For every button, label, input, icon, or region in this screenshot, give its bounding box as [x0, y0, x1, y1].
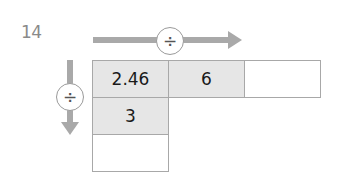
grid-row: 2.46 6	[93, 61, 321, 98]
question-number: 14	[21, 22, 42, 42]
grid-row: 3	[93, 98, 321, 135]
divide-icon: ÷	[56, 83, 84, 111]
cell-vertical-divisor: 3	[93, 98, 169, 135]
cell-start-value: 2.46	[93, 61, 169, 98]
cell-horizontal-answer[interactable]	[245, 61, 321, 98]
horizontal-operator: ÷	[163, 33, 177, 50]
cell-horizontal-divisor: 6	[169, 61, 245, 98]
down-arrow-icon	[61, 122, 79, 135]
right-arrow-icon	[228, 31, 242, 49]
empty-space	[245, 98, 321, 135]
cell-vertical-answer[interactable]	[93, 135, 169, 172]
empty-space	[245, 135, 321, 172]
vertical-operator: ÷	[63, 89, 77, 106]
divide-icon: ÷	[156, 27, 184, 55]
empty-space	[169, 98, 245, 135]
empty-space	[169, 135, 245, 172]
division-grid: 2.46 6 3	[92, 60, 321, 172]
grid-row	[93, 135, 321, 172]
